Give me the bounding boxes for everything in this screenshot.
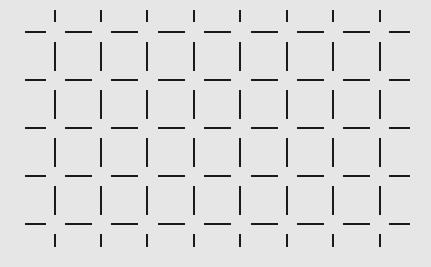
vertical-segment <box>286 186 288 215</box>
vertical-segment <box>286 90 288 119</box>
horizontal-segment <box>204 223 231 225</box>
horizontal-segment <box>389 223 410 225</box>
vertical-segment <box>379 138 381 167</box>
vertical-segment <box>379 90 381 119</box>
vertical-segment <box>379 10 381 22</box>
vertical-segment <box>146 42 148 71</box>
vertical-segment <box>54 234 56 247</box>
horizontal-segment <box>65 79 92 81</box>
vertical-segment <box>54 186 56 215</box>
horizontal-segment <box>158 79 185 81</box>
vertical-segment <box>239 90 241 119</box>
vertical-segment <box>54 42 56 71</box>
vertical-segment <box>100 42 102 71</box>
vertical-segment <box>54 90 56 119</box>
horizontal-segment <box>25 31 46 33</box>
horizontal-segment <box>251 223 278 225</box>
vertical-segment <box>379 234 381 247</box>
vertical-segment <box>100 10 102 22</box>
vertical-segment <box>100 186 102 215</box>
horizontal-segment <box>158 127 185 129</box>
vertical-segment <box>100 234 102 247</box>
vertical-segment <box>193 186 195 215</box>
horizontal-segment <box>389 79 410 81</box>
vertical-segment <box>239 186 241 215</box>
horizontal-segment <box>111 127 138 129</box>
vertical-segment <box>379 42 381 71</box>
horizontal-segment <box>111 79 138 81</box>
vertical-segment <box>332 234 334 247</box>
horizontal-segment <box>251 175 278 177</box>
vertical-segment <box>286 138 288 167</box>
horizontal-segment <box>297 79 324 81</box>
vertical-segment <box>239 234 241 247</box>
horizontal-segment <box>25 127 46 129</box>
vertical-segment <box>239 42 241 71</box>
vertical-segment <box>239 10 241 22</box>
horizontal-segment <box>111 175 138 177</box>
horizontal-segment <box>25 223 46 225</box>
vertical-segment <box>100 138 102 167</box>
vertical-segment <box>379 186 381 215</box>
line-segment-grid <box>0 0 431 267</box>
vertical-segment <box>286 10 288 22</box>
horizontal-segment <box>251 127 278 129</box>
horizontal-segment <box>343 175 370 177</box>
horizontal-segment <box>389 127 410 129</box>
vertical-segment <box>332 10 334 22</box>
horizontal-segment <box>158 223 185 225</box>
horizontal-segment <box>297 31 324 33</box>
horizontal-segment <box>25 79 46 81</box>
vertical-segment <box>146 186 148 215</box>
horizontal-segment <box>111 223 138 225</box>
horizontal-segment <box>158 31 185 33</box>
horizontal-segment <box>204 79 231 81</box>
horizontal-segment <box>297 127 324 129</box>
horizontal-segment <box>204 127 231 129</box>
vertical-segment <box>146 10 148 22</box>
horizontal-segment <box>251 31 278 33</box>
vertical-segment <box>146 138 148 167</box>
horizontal-segment <box>111 31 138 33</box>
horizontal-segment <box>65 175 92 177</box>
vertical-segment <box>54 10 56 22</box>
vertical-segment <box>332 42 334 71</box>
horizontal-segment <box>25 175 46 177</box>
horizontal-segment <box>297 175 324 177</box>
vertical-segment <box>286 42 288 71</box>
vertical-segment <box>54 138 56 167</box>
vertical-segment <box>332 138 334 167</box>
vertical-segment <box>332 186 334 215</box>
vertical-segment <box>193 10 195 22</box>
horizontal-segment <box>65 223 92 225</box>
horizontal-segment <box>204 175 231 177</box>
horizontal-segment <box>343 223 370 225</box>
vertical-segment <box>193 42 195 71</box>
vertical-segment <box>193 90 195 119</box>
horizontal-segment <box>65 127 92 129</box>
vertical-segment <box>146 90 148 119</box>
horizontal-segment <box>204 31 231 33</box>
horizontal-segment <box>343 127 370 129</box>
vertical-segment <box>286 234 288 247</box>
vertical-segment <box>146 234 148 247</box>
horizontal-segment <box>389 175 410 177</box>
vertical-segment <box>332 90 334 119</box>
horizontal-segment <box>343 79 370 81</box>
horizontal-segment <box>158 175 185 177</box>
horizontal-segment <box>65 31 92 33</box>
vertical-segment <box>239 138 241 167</box>
vertical-segment <box>193 234 195 247</box>
horizontal-segment <box>389 31 410 33</box>
horizontal-segment <box>343 31 370 33</box>
vertical-segment <box>100 90 102 119</box>
vertical-segment <box>193 138 195 167</box>
horizontal-segment <box>297 223 324 225</box>
horizontal-segment <box>251 79 278 81</box>
